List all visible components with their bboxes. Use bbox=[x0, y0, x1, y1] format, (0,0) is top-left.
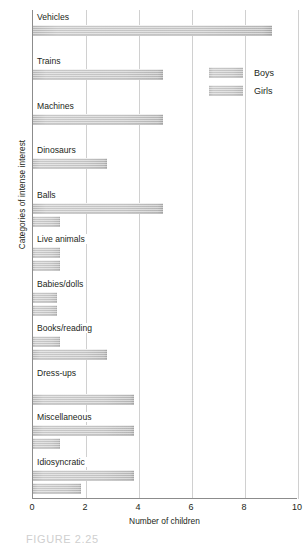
x-axis-line bbox=[33, 498, 297, 499]
bar-boys bbox=[33, 25, 272, 36]
category-label: Babies/dolls bbox=[36, 279, 85, 289]
x-tick-label-0: 0 bbox=[29, 502, 34, 512]
bar-group: Idiosyncratic bbox=[33, 455, 297, 499]
bar-boys bbox=[33, 425, 134, 436]
x-tick-label-10: 10 bbox=[292, 502, 302, 512]
legend-label-boys: Boys bbox=[254, 68, 274, 78]
figure-container: Categories of intense interest VehiclesT… bbox=[0, 0, 306, 548]
category-label: Trains bbox=[36, 56, 63, 66]
bar-group: Machines bbox=[33, 99, 297, 143]
category-label: Dress-ups bbox=[36, 368, 78, 378]
bar-boys bbox=[33, 470, 134, 481]
category-label: Live animals bbox=[36, 234, 87, 244]
category-label: Machines bbox=[36, 101, 76, 111]
x-tick-label-2: 2 bbox=[82, 502, 87, 512]
bar-boys bbox=[33, 292, 57, 303]
bar-group: Books/reading bbox=[33, 321, 297, 365]
bar-boys bbox=[33, 69, 163, 80]
x-axis-title: Number of children bbox=[32, 516, 297, 526]
x-tick-label-8: 8 bbox=[241, 502, 246, 512]
bar-group: Miscellaneous bbox=[33, 410, 297, 454]
bar-girls bbox=[33, 483, 81, 494]
bar-girls bbox=[33, 305, 57, 316]
bar-group: Balls bbox=[33, 188, 297, 232]
bar-girls bbox=[33, 349, 107, 360]
bar-boys bbox=[33, 336, 60, 347]
bar-girls bbox=[33, 216, 60, 227]
category-label: Vehicles bbox=[36, 12, 71, 22]
x-axis-tick-labels: 0246810 bbox=[32, 502, 297, 516]
bar-group: Babies/dolls bbox=[33, 277, 297, 321]
legend-item-boys: Boys bbox=[209, 66, 274, 79]
bar-boys bbox=[33, 203, 163, 214]
category-label: Balls bbox=[36, 190, 58, 200]
bar-group: Live animals bbox=[33, 232, 297, 276]
bar-boys bbox=[33, 114, 163, 125]
bar-girls bbox=[33, 438, 60, 449]
category-label: Books/reading bbox=[36, 323, 94, 333]
category-label: Dinosaurs bbox=[36, 145, 78, 155]
figure-caption: FIGURE 2.25 bbox=[26, 533, 99, 545]
bar-girls bbox=[33, 394, 134, 405]
bar-boys bbox=[33, 247, 60, 258]
bar-group: Vehicles bbox=[33, 10, 297, 54]
y-axis-title: Categories of intense interest bbox=[18, 115, 27, 275]
category-label: Miscellaneous bbox=[36, 412, 93, 422]
gridline-10 bbox=[298, 10, 299, 499]
x-tick-label-4: 4 bbox=[135, 502, 140, 512]
x-tick-label-6: 6 bbox=[188, 502, 193, 512]
bar-boys bbox=[33, 158, 107, 169]
legend-label-girls: Girls bbox=[254, 86, 273, 96]
bar-girls bbox=[33, 260, 60, 271]
bar-group: Dress-ups bbox=[33, 366, 297, 410]
category-label: Idiosyncratic bbox=[36, 457, 87, 467]
legend-swatch-boys bbox=[209, 67, 243, 78]
bar-group: Dinosaurs bbox=[33, 143, 297, 187]
legend-item-girls: Girls bbox=[209, 84, 274, 97]
legend-swatch-girls bbox=[209, 85, 243, 96]
chart-legend: Boys Girls bbox=[209, 66, 274, 102]
